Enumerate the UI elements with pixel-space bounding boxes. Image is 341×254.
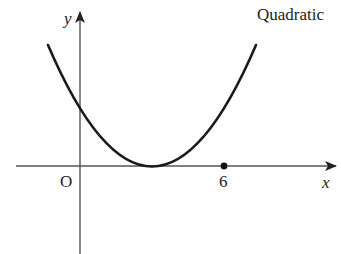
diagram-title: Quadratic (257, 6, 324, 23)
x-axis-label: x (322, 174, 330, 191)
y-axis-label: y (64, 10, 72, 27)
root-label-6: 6 (219, 173, 228, 190)
quadratic-diagram: Quadratic y x O 6 (0, 0, 341, 254)
root-point-6 (221, 163, 228, 170)
parabola-curve (48, 45, 256, 167)
origin-label: O (60, 173, 72, 190)
graph-canvas (0, 0, 341, 254)
